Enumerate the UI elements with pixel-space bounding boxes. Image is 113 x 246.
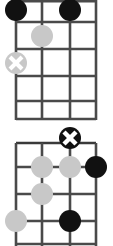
marker-filled-s3-f1 [59, 0, 81, 21]
fret-lines-top [16, 1, 96, 119]
fret-lines-bottom [16, 143, 96, 244]
fretboard-grid-top [0, 0, 113, 123]
chord-diagram-top [0, 0, 113, 123]
marker-open-x-s3-nut [59, 127, 81, 149]
marker-filled-s1-f1 [5, 0, 27, 21]
marker-muted-s2-f1 [31, 156, 53, 178]
marker-muted-s1-f3 [5, 210, 27, 232]
marker-muted-s3-f1 [59, 156, 81, 178]
marker-muted-s2-f2 [31, 183, 53, 205]
chord-diagram-bottom [0, 123, 113, 246]
marker-filled-s3-f3 [59, 210, 81, 232]
marker-muted-x-s1-f3 [5, 52, 27, 74]
fretboard-grid-bottom [0, 123, 113, 246]
marker-filled-s4-f1 [85, 156, 107, 178]
marker-muted-s2-f2 [31, 25, 53, 47]
